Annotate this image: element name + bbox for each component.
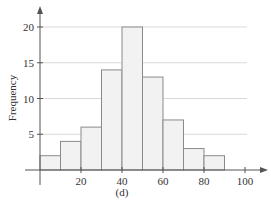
y-tick-label: 5 — [29, 128, 35, 140]
y-tick-label: 20 — [23, 21, 35, 33]
histogram-bar — [143, 77, 164, 170]
histogram-bar — [122, 27, 143, 170]
x-axis-arrow-icon — [260, 167, 268, 173]
x-tick-label: 80 — [199, 175, 211, 187]
histogram-bar — [61, 141, 82, 170]
y-axis-arrow-icon — [37, 6, 43, 14]
y-tick-label: 10 — [23, 93, 35, 105]
x-tick-label: 20 — [76, 175, 88, 187]
histogram-bar — [184, 149, 205, 170]
histogram-bar — [40, 156, 61, 170]
chart-caption: (d) — [116, 186, 129, 199]
histogram-bar — [81, 127, 102, 170]
histogram-bar — [204, 156, 225, 170]
histogram-chart: 20406080100 5101520 Frequency (d) — [0, 0, 271, 207]
x-tick-label: 100 — [237, 175, 254, 187]
x-tick-label: 60 — [158, 175, 170, 187]
y-axis-label: Frequency — [6, 74, 18, 121]
histogram-bar — [163, 120, 184, 170]
y-tick-label: 15 — [23, 57, 35, 69]
histogram-bar — [102, 70, 123, 170]
